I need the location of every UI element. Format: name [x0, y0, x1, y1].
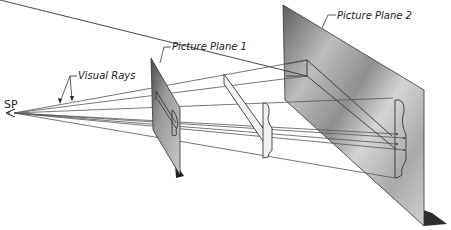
picture-plane-2: [0, 0, 447, 226]
picture-plane-1-label: Picture Plane 1: [172, 41, 247, 52]
picture-plane-2-label: Picture Plane 2: [337, 10, 412, 21]
station-point: SP: [4, 98, 18, 117]
perspective-diagram: SP Visual Rays Picture Plane 1 Picture P…: [0, 0, 451, 230]
picture-plane-1-callout: Picture Plane 1: [160, 41, 247, 63]
object-between-planes: [224, 74, 272, 158]
picture-plane-1: [151, 58, 184, 178]
station-point-label: SP: [4, 98, 18, 111]
picture-plane-2-callout: Picture Plane 2: [322, 10, 412, 28]
visual-rays-label: Visual Rays: [78, 70, 135, 81]
